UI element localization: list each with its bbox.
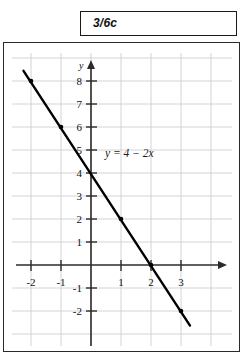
exercise-tag-box: 3/6c xyxy=(80,11,237,36)
y-tick-label: 2 xyxy=(77,213,83,225)
coordinate-plot: y 8 7 6 5 4 3 2 xyxy=(4,43,239,351)
y-tick-label: 4 xyxy=(77,167,83,179)
data-line xyxy=(24,71,191,326)
y-tick-label: 6 xyxy=(77,121,83,133)
data-point xyxy=(119,217,124,222)
graph-svg: y 8 7 6 5 4 3 2 xyxy=(4,43,239,351)
y-tick-label: -2 xyxy=(73,305,82,317)
x-tick-label: 1 xyxy=(118,276,124,288)
x-tick-label: 3 xyxy=(178,276,184,288)
axes: y xyxy=(16,60,227,346)
y-axis-name-label: y xyxy=(78,60,84,71)
exercise-tag-label: 3/6c xyxy=(93,16,117,30)
data-point xyxy=(179,309,184,314)
grid-lines xyxy=(12,53,232,346)
x-tick-label: -2 xyxy=(26,276,35,288)
data-point xyxy=(149,263,154,268)
x-axis-arrow xyxy=(218,261,227,269)
y-axis-arrow xyxy=(87,60,95,69)
x-tick-label: 2 xyxy=(148,276,154,288)
y-tick-label: 1 xyxy=(77,236,83,248)
y-tick-label: -1 xyxy=(73,282,82,294)
y-tick-label: 7 xyxy=(77,98,83,110)
y-tick-label: 8 xyxy=(77,75,83,87)
figure-frame: y 8 7 6 5 4 3 2 xyxy=(3,42,240,352)
data-point xyxy=(59,125,64,130)
data-point xyxy=(29,79,34,84)
equation-annotation: y = 4 − 2x xyxy=(104,147,155,160)
x-tick-label: -1 xyxy=(56,276,65,288)
y-tick-label: 3 xyxy=(77,190,83,202)
